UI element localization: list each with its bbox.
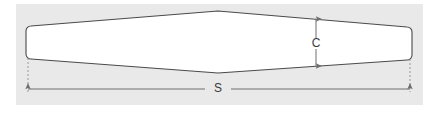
figure-container: C S (0, 0, 439, 113)
chord-dimension-label: C (312, 36, 321, 50)
wing-planform-diagram: C S (0, 0, 439, 113)
span-dimension-label: S (214, 81, 222, 95)
